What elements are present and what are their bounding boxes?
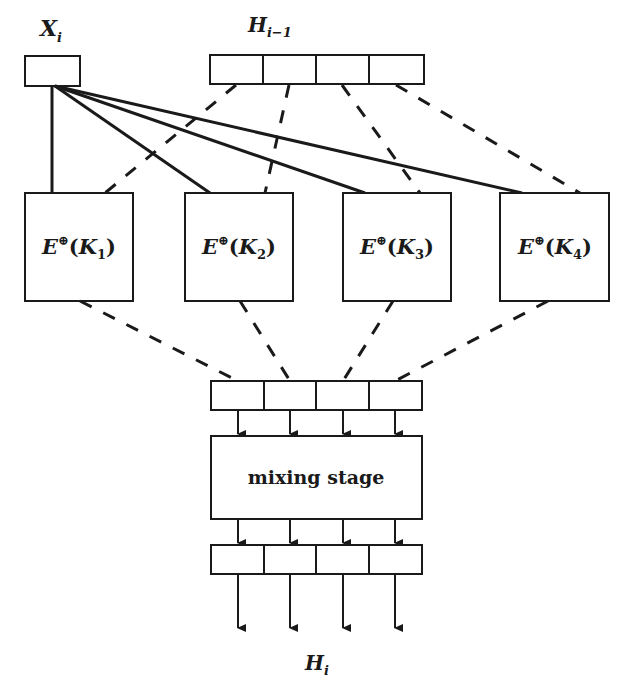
edge-e3-reg — [343, 301, 393, 381]
mixing-to-output-arrows — [238, 519, 395, 543]
h-prev-label: Hi−1 — [247, 13, 292, 40]
intermediate-register — [211, 381, 422, 410]
x-i-block — [25, 56, 80, 86]
mixing-stage: mixing stage — [211, 436, 422, 519]
register-to-mixing-arrows — [238, 410, 395, 434]
encryptor-e2: E⊕(K2) — [185, 193, 293, 301]
hash-construction-diagram: Xi Hi−1 E⊕(K1) E⊕(K2) E⊕(K3) — [0, 0, 623, 693]
encryptor-e1: E⊕(K1) — [25, 193, 133, 301]
output-arrows — [238, 574, 395, 628]
edge-x-e4 — [55, 86, 522, 193]
encryptor-e4: E⊕(K4) — [500, 193, 609, 301]
encryptor-e3: E⊕(K3) — [343, 193, 451, 301]
edge-e4-reg — [395, 301, 548, 381]
h-prev-register — [210, 55, 424, 84]
edge-e1-reg — [80, 301, 238, 381]
hprev-to-encryptor-edges — [105, 85, 580, 193]
output-register — [211, 545, 422, 574]
x-to-encryptor-edges — [52, 86, 522, 193]
edge-x-e2 — [55, 86, 210, 193]
edge-x-e3 — [55, 86, 365, 193]
edge-h-e4 — [396, 85, 580, 193]
x-i-label: Xi — [38, 15, 62, 45]
mixing-stage-label: mixing stage — [248, 466, 385, 488]
edge-e2-reg — [240, 301, 290, 381]
edge-h-e3 — [342, 85, 420, 193]
h-i-label: Hi — [304, 651, 329, 678]
encryptor-to-register-edges — [80, 301, 548, 381]
